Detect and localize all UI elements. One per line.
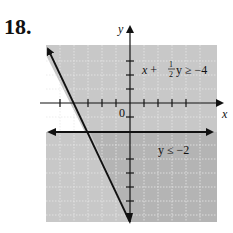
inequality-graph: y x 0 x + 1 2 y ≥ −4 y ≤ −2 [0,0,233,233]
svg-text:y ≥ −4: y ≥ −4 [176,63,207,77]
y-axis-label: y [117,22,124,36]
svg-text:x +: x + [141,63,157,77]
x-axis-label: x [221,107,228,121]
origin-label: 0 [119,106,125,120]
svg-text:2: 2 [169,70,173,79]
svg-text:1: 1 [169,60,173,69]
inequality-label-2: y ≤ −2 [158,143,189,157]
